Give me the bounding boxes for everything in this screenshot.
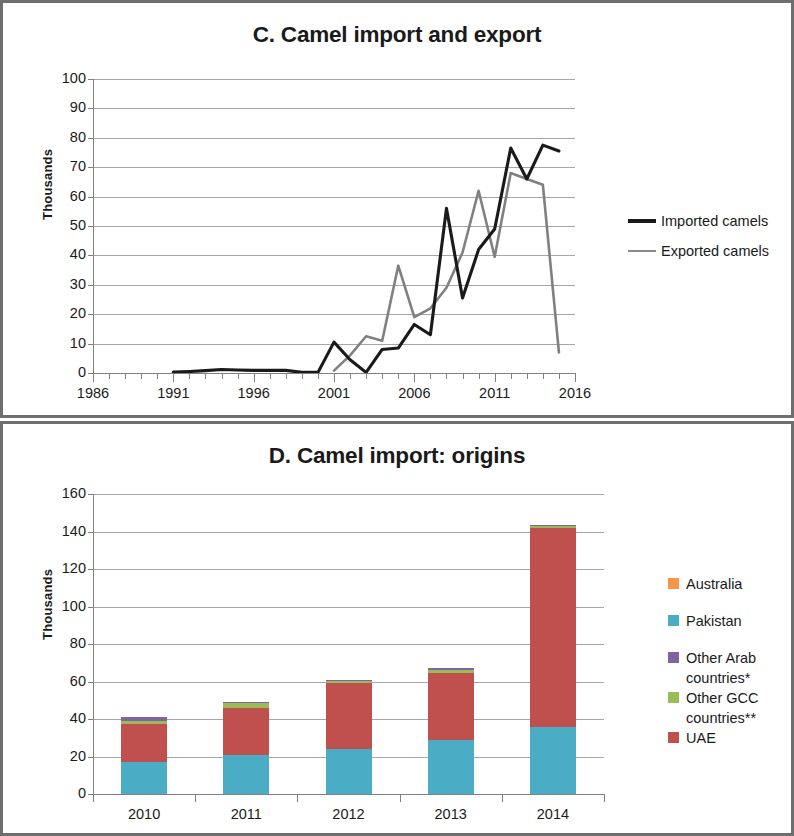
panel-c-title: C. Camel import and export bbox=[0, 22, 794, 48]
bar-segment[interactable] bbox=[121, 724, 167, 762]
y-tick-label: 0 bbox=[44, 786, 86, 801]
y-tick-label: 90 bbox=[50, 100, 86, 115]
bar-segment[interactable] bbox=[223, 755, 269, 794]
legend-color-swatch-icon bbox=[668, 578, 679, 589]
legend-item-other-gcc-countries[interactable]: Other GCC countries** bbox=[668, 688, 792, 728]
y-tick-label: 70 bbox=[50, 159, 86, 174]
x-minor-tickmark bbox=[543, 373, 544, 379]
bar-segment[interactable] bbox=[428, 668, 474, 670]
legend-item-uae[interactable]: UAE bbox=[668, 728, 792, 748]
x-minor-tickmark bbox=[318, 373, 319, 379]
x-major-tickmark bbox=[334, 373, 335, 382]
legend-line-swatch-icon bbox=[628, 250, 656, 253]
y-tickmark bbox=[88, 79, 93, 80]
legend-item-imported-camels[interactable]: Imported camels bbox=[628, 206, 769, 236]
x-minor-tickmark bbox=[125, 373, 126, 379]
x-tickmark bbox=[195, 794, 196, 802]
y-tick-label: 50 bbox=[50, 218, 86, 233]
bar-segment[interactable] bbox=[428, 673, 474, 740]
bar-segment[interactable] bbox=[530, 526, 576, 528]
y-tickmark bbox=[88, 794, 93, 795]
y-tick-label: 100 bbox=[44, 599, 86, 614]
y-tick-label: 20 bbox=[50, 306, 86, 321]
y-tick-label: 20 bbox=[44, 749, 86, 764]
x-minor-tickmark bbox=[205, 373, 206, 379]
y-tickmark bbox=[88, 314, 93, 315]
bar-segment[interactable] bbox=[326, 683, 372, 749]
x-tick-label: 1996 bbox=[224, 385, 284, 401]
bar-column[interactable] bbox=[428, 494, 474, 794]
y-tick-label: 30 bbox=[50, 277, 86, 292]
legend-label: Other Arab countries* bbox=[686, 648, 756, 688]
bar-segment[interactable] bbox=[121, 717, 167, 721]
x-minor-tickmark bbox=[463, 373, 464, 379]
panel-c-plot-area bbox=[93, 79, 575, 373]
legend-label-line1: Other Arab bbox=[686, 650, 756, 666]
bar-segment[interactable] bbox=[530, 727, 576, 795]
legend-item-other-arab-countries[interactable]: Other Arab countries* bbox=[668, 648, 792, 688]
bar-segment[interactable] bbox=[530, 525, 576, 526]
bar-segment[interactable] bbox=[428, 670, 474, 673]
x-major-tickmark bbox=[575, 373, 576, 382]
legend-item-australia[interactable]: Australia bbox=[668, 574, 792, 594]
x-tick-label: 2010 bbox=[104, 806, 184, 822]
y-tick-label: 40 bbox=[50, 247, 86, 262]
panel-d-x-axis-line bbox=[93, 794, 604, 795]
x-minor-tickmark bbox=[446, 373, 447, 379]
y-tick-label: 160 bbox=[44, 486, 86, 501]
x-tickmark bbox=[400, 794, 401, 802]
x-tick-label: 2001 bbox=[304, 385, 364, 401]
y-tickmark bbox=[88, 682, 93, 683]
x-tick-label: 2006 bbox=[384, 385, 444, 401]
y-tickmark bbox=[88, 197, 93, 198]
y-tickmark bbox=[88, 255, 93, 256]
x-minor-tickmark bbox=[382, 373, 383, 379]
x-minor-tickmark bbox=[350, 373, 351, 379]
series-line-imported-camels bbox=[173, 145, 559, 372]
bar-segment[interactable] bbox=[223, 702, 269, 708]
bar-column[interactable] bbox=[223, 494, 269, 794]
x-minor-tickmark bbox=[157, 373, 158, 379]
y-tickmark bbox=[88, 757, 93, 758]
x-minor-tickmark bbox=[189, 373, 190, 379]
y-tickmark bbox=[88, 532, 93, 533]
x-minor-tickmark bbox=[479, 373, 480, 379]
bar-column[interactable] bbox=[326, 494, 372, 794]
bar-column[interactable] bbox=[530, 494, 576, 794]
figure-page: C. Camel import and export Thousands 100… bbox=[0, 0, 794, 836]
x-minor-tickmark bbox=[222, 373, 223, 379]
x-tick-label: 1986 bbox=[63, 385, 123, 401]
x-minor-tickmark bbox=[141, 373, 142, 379]
x-minor-tickmark bbox=[398, 373, 399, 379]
bar-segment[interactable] bbox=[121, 762, 167, 794]
y-tick-label: 10 bbox=[50, 336, 86, 351]
legend-item-exported-camels[interactable]: Exported camels bbox=[628, 236, 769, 266]
x-minor-tickmark bbox=[238, 373, 239, 379]
x-minor-tickmark bbox=[527, 373, 528, 379]
bar-segment[interactable] bbox=[326, 681, 372, 684]
x-minor-tickmark bbox=[302, 373, 303, 379]
bar-segment[interactable] bbox=[428, 740, 474, 794]
x-tickmark bbox=[604, 794, 605, 802]
x-minor-tickmark bbox=[109, 373, 110, 379]
panel-c-series-svg bbox=[93, 79, 575, 373]
bar-column[interactable] bbox=[121, 494, 167, 794]
panel-d-title: D. Camel import: origins bbox=[0, 443, 794, 469]
legend-item-pakistan[interactable]: Pakistan bbox=[668, 611, 792, 631]
bar-segment[interactable] bbox=[223, 708, 269, 755]
y-tickmark bbox=[88, 373, 93, 374]
y-tickmark bbox=[88, 607, 93, 608]
bar-segment[interactable] bbox=[530, 528, 576, 727]
y-tick-label: 60 bbox=[50, 189, 86, 204]
y-tick-label: 140 bbox=[44, 524, 86, 539]
y-tickmark bbox=[88, 138, 93, 139]
legend-label: Other GCC countries** bbox=[686, 688, 759, 728]
bar-segment[interactable] bbox=[326, 749, 372, 794]
legend-line-swatch-icon bbox=[628, 219, 656, 222]
bar-segment[interactable] bbox=[223, 702, 269, 703]
bar-segment[interactable] bbox=[121, 721, 167, 724]
bar-segment[interactable] bbox=[326, 680, 372, 681]
legend-color-swatch-icon bbox=[668, 615, 679, 626]
x-minor-tickmark bbox=[559, 373, 560, 379]
x-major-tickmark bbox=[414, 373, 415, 382]
